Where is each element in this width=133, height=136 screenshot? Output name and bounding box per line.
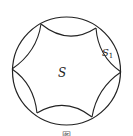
arc-top	[41, 24, 96, 36]
label-s1: S1	[102, 47, 113, 60]
arc-upper-left	[12, 24, 41, 69]
arc-lower-right	[92, 72, 121, 117]
outer-circle	[13, 17, 121, 125]
arc-bottom	[37, 105, 92, 117]
label-s1-subscript: 1	[109, 52, 113, 60]
label-s: S	[58, 66, 66, 80]
figure-caption: 图	[0, 129, 133, 136]
inward-arcs	[12, 24, 121, 117]
diagram-figure: S S1	[0, 0, 133, 136]
